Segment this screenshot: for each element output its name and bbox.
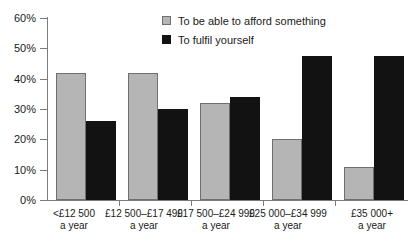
y-tick-label-40: 40%: [0, 74, 36, 85]
x-category-label-1: <£12 500 a year: [35, 208, 113, 232]
x-tick-1: [119, 201, 120, 206]
bar-black-g1[interactable]: [86, 121, 116, 200]
x-category-label-3: £17 500–£24 999 a year: [176, 208, 256, 232]
x-category-label-3-line2: a year: [176, 220, 256, 232]
bar-black-g2[interactable]: [158, 109, 188, 200]
y-tick-20: [40, 139, 47, 140]
y-tick-60: [40, 18, 47, 19]
x-category-label-5-line1: £35 000+: [351, 208, 393, 219]
x-category-label-2-line2: a year: [104, 220, 184, 232]
y-tick-label-30: 30%: [0, 104, 36, 115]
x-tick-2: [191, 201, 192, 206]
x-tick-3: [263, 201, 264, 206]
bar-grey-g3[interactable]: [200, 103, 230, 200]
y-tick-0: [40, 200, 47, 201]
y-tick-label-60: 60%: [0, 13, 36, 24]
x-category-label-5: £35 000+ a year: [332, 208, 412, 232]
x-category-label-4-line1: £25 000–£34 999: [249, 208, 327, 219]
x-category-label-4: £25 000–£34 999 a year: [248, 208, 328, 232]
y-tick-30: [40, 109, 47, 110]
x-category-label-1-line2: a year: [35, 220, 113, 232]
bar-chart: To be able to afford something To fulfil…: [0, 0, 416, 239]
bar-grey-g4[interactable]: [272, 139, 302, 200]
x-axis-line: [47, 200, 408, 201]
bar-black-g5[interactable]: [374, 56, 404, 200]
x-category-label-1-line1: <£12 500: [53, 208, 95, 219]
y-tick-50: [40, 48, 47, 49]
x-category-label-5-line2: a year: [332, 220, 412, 232]
y-tick-label-0: 0%: [0, 195, 36, 206]
plot-area: [47, 18, 408, 200]
y-tick-label-10: 10%: [0, 165, 36, 176]
bar-grey-g2[interactable]: [128, 73, 158, 200]
x-category-label-3-line1: £17 500–£24 999: [177, 208, 255, 219]
y-tick-10: [40, 170, 47, 171]
bar-grey-g1[interactable]: [56, 73, 86, 200]
bar-black-g3[interactable]: [230, 97, 260, 200]
y-tick-label-50: 50%: [0, 43, 36, 54]
bar-grey-g5[interactable]: [344, 167, 374, 200]
x-category-label-2-line1: £12 500–£17 499: [105, 208, 183, 219]
bar-black-g4[interactable]: [302, 56, 332, 200]
x-tick-4: [335, 201, 336, 206]
x-category-label-4-line2: a year: [248, 220, 328, 232]
x-category-label-2: £12 500–£17 499 a year: [104, 208, 184, 232]
y-tick-label-20: 20%: [0, 134, 36, 145]
y-tick-40: [40, 79, 47, 80]
